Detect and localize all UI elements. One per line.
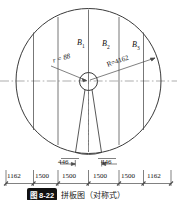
dimension-value-4: 1500	[93, 173, 107, 180]
figure-caption: 图 8-22 拼板图（对称式）	[0, 188, 177, 200]
panel-label-b3: B3	[132, 41, 140, 51]
dimension-value-1: 1162	[7, 173, 21, 180]
wedge-edge-right	[92, 90, 102, 153]
figure-number-badge: 图 8-22	[27, 188, 57, 200]
figure-caption-text: 拼板图（对称式）	[61, 189, 125, 200]
dimension-value-3: 1500	[62, 173, 76, 180]
wedge-dimension-right: 446	[101, 159, 112, 166]
inner-radius-leader	[51, 66, 87, 82]
dimension-value-6: 1162	[147, 173, 161, 180]
plate-layout-drawing-canvas	[0, 0, 177, 200]
dimension-value-2: 1500	[35, 173, 49, 180]
technical-drawing-figure: B1 B2 B3 r = 88 R=4162 446 446 1162 1500…	[0, 0, 177, 200]
wedge-edge-left	[76, 90, 86, 153]
wedge-dimension-left: 446	[58, 159, 69, 166]
dimension-value-5: 1500	[121, 173, 135, 180]
panel-label-b2: B2	[102, 40, 110, 50]
panel-label-b1: B1	[77, 39, 85, 49]
